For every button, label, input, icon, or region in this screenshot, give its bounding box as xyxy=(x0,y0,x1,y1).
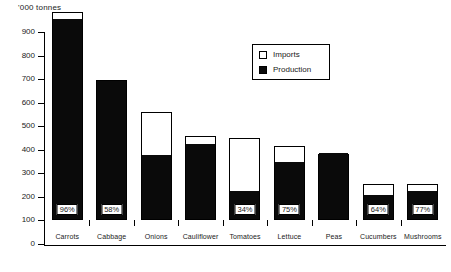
x-axis-tick xyxy=(178,220,179,226)
bar-percent-label: 77% xyxy=(412,204,433,215)
y-tick-mark xyxy=(38,32,45,33)
bar-group[interactable]: 96%Carrots xyxy=(45,0,89,246)
x-axis-tick xyxy=(267,220,268,226)
bar-segment-production xyxy=(186,144,215,219)
stacked-bar[interactable]: 34% xyxy=(229,138,260,220)
chart-legend: Imports Production xyxy=(252,44,330,80)
stacked-bar[interactable] xyxy=(141,112,172,220)
stacked-bar[interactable]: 64% xyxy=(363,184,394,221)
x-axis-tick xyxy=(89,220,90,226)
x-axis-category-label: Cabbage xyxy=(97,233,126,240)
bar-percent-label: 58% xyxy=(101,204,122,215)
y-tick-mark xyxy=(38,150,45,151)
stacked-bar[interactable] xyxy=(185,136,216,220)
y-tick-mark xyxy=(38,56,45,57)
bar-group[interactable]: Peas xyxy=(312,0,356,246)
y-tick-mark xyxy=(38,220,45,221)
x-axis-category-label: Lettuce xyxy=(278,233,302,240)
bar-group[interactable]: 77%Mushrooms xyxy=(401,0,445,246)
bar-group[interactable]: 58%Cabbage xyxy=(89,0,133,246)
x-axis-tick xyxy=(401,220,402,226)
bar-segment-imports xyxy=(230,139,259,193)
y-tick-mark xyxy=(38,244,45,245)
bar-segment-imports xyxy=(142,113,171,158)
bar-group[interactable]: Onions xyxy=(134,0,178,246)
x-axis-category-label: Onions xyxy=(145,233,168,240)
y-tick-label: 100 xyxy=(22,215,35,224)
y-tick-mark xyxy=(38,126,45,127)
y-tick-mark xyxy=(38,103,45,104)
legend-swatch-imports xyxy=(259,51,267,59)
y-tick-label: 500 xyxy=(22,121,35,130)
legend-item-production: Production xyxy=(259,65,323,74)
bar-group[interactable]: 64%Cucumbers xyxy=(356,0,400,246)
x-axis-category-label: Mushrooms xyxy=(404,233,441,240)
stacked-bar[interactable]: 75% xyxy=(274,146,305,220)
stacked-bar[interactable]: 58% xyxy=(96,80,127,220)
x-axis-category-label: Carrots xyxy=(55,233,79,240)
y-tick-label: 300 xyxy=(22,168,35,177)
y-tick-label: 200 xyxy=(22,192,35,201)
x-axis-tick xyxy=(312,220,313,226)
bar-percent-label: 64% xyxy=(368,204,389,215)
stacked-bar[interactable]: 96% xyxy=(52,12,83,220)
bar-segment-production xyxy=(142,155,171,219)
x-axis-category-label: Cauliflower xyxy=(183,233,219,240)
bar-group[interactable]: 34%Tomatoes xyxy=(223,0,267,246)
y-tick-label: 800 xyxy=(22,51,35,60)
x-axis-category-label: Peas xyxy=(326,233,342,240)
y-tick-label: 400 xyxy=(22,145,35,154)
bars-layer: 96%Carrots58%CabbageOnionsCauliflower34%… xyxy=(45,0,445,246)
bar-percent-label: 75% xyxy=(279,204,300,215)
y-tick-mark xyxy=(38,79,45,80)
bar-group[interactable]: Cauliflower xyxy=(178,0,222,246)
stacked-bar[interactable]: 77% xyxy=(407,184,438,221)
legend-label-imports: Imports xyxy=(273,50,300,59)
y-tick-label: 0 xyxy=(31,239,35,248)
y-tick-mark xyxy=(38,173,45,174)
x-axis-category-label: Cucumbers xyxy=(360,233,397,240)
bar-segment-production xyxy=(319,153,348,219)
legend-item-imports: Imports xyxy=(259,50,323,59)
x-axis-category-label: Tomatoes xyxy=(229,233,260,240)
legend-swatch-production xyxy=(259,66,267,74)
bar-chart: '000 tonnes 0100200300400500600700800900… xyxy=(0,0,451,272)
bar-percent-label: 34% xyxy=(234,204,255,215)
y-tick-label: 700 xyxy=(22,74,35,83)
x-axis-tick xyxy=(356,220,357,226)
y-tick-label: 900 xyxy=(22,27,35,36)
bar-percent-label: 96% xyxy=(57,204,78,215)
x-axis-tick xyxy=(223,220,224,226)
bar-group[interactable]: 75%Lettuce xyxy=(267,0,311,246)
y-tick-label: 600 xyxy=(22,98,35,107)
bar-segment-production xyxy=(97,81,126,219)
bar-segment-production xyxy=(53,19,82,219)
x-axis-tick xyxy=(134,220,135,226)
stacked-bar[interactable] xyxy=(318,154,349,220)
y-tick-mark xyxy=(38,197,45,198)
legend-label-production: Production xyxy=(273,65,311,74)
